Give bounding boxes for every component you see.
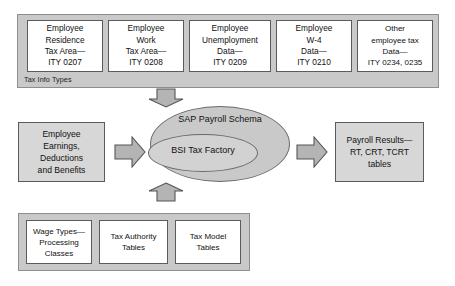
sap-payroll-schema-label: SAP Payroll Schema	[150, 114, 290, 124]
box-line-4: ITY 0208	[110, 57, 182, 68]
box-employee-earnings-deductions-benefits[interactable]: Employee Earnings, Deductions and Benefi…	[18, 122, 105, 182]
box-employee-residence-tax-area[interactable]: Employee Residence Tax Area— ITY 0207	[27, 20, 103, 72]
box-line-1: Payroll Results—	[337, 134, 422, 146]
box-employee-work-tax-area[interactable]: Employee Work Tax Area— ITY 0208	[108, 20, 184, 72]
box-line-3: Tax Area—	[110, 46, 182, 57]
box-line-1: Tax Model	[177, 231, 239, 242]
box-line-2: Tables	[101, 242, 166, 253]
box-line-2: Work	[110, 35, 182, 46]
box-line-3: tables	[337, 158, 422, 170]
box-line-1: Employee	[29, 23, 101, 34]
box-line-4: ITY 0207	[29, 57, 101, 68]
payroll-process-group: SAP Payroll Schema BSI Tax Factory	[150, 106, 290, 182]
box-line-1: Tax Authority	[101, 231, 166, 242]
box-line-3: Data—	[359, 46, 431, 57]
box-line-3: Classes	[28, 248, 90, 259]
box-line-2: W-4	[278, 35, 350, 46]
tax-info-types-label: Tax Info Types	[24, 75, 72, 84]
box-line-2: RT, CRT, TCRT	[337, 146, 422, 158]
box-line-3: Data—	[191, 46, 269, 57]
arrow-up-icon	[148, 182, 184, 202]
box-line-3: Tax Area—	[29, 46, 101, 57]
arrow-right-icon-output	[296, 136, 328, 168]
box-line-4: and Benefits	[20, 164, 103, 176]
box-line-1: Wage Types—	[28, 226, 90, 237]
box-line-1: Employee	[191, 23, 269, 34]
bsi-tax-factory-label: BSI Tax Factory	[148, 145, 258, 155]
box-wage-types-processing-classes[interactable]: Wage Types— Processing Classes	[26, 220, 92, 264]
box-employee-unemployment-data[interactable]: Employee Unemployment Data— ITY 0209	[189, 20, 271, 72]
box-line-2: employee tax	[359, 35, 431, 46]
box-employee-w4-data[interactable]: Employee W-4 Data— ITY 0210	[276, 20, 352, 72]
box-line-1: Other	[359, 23, 431, 34]
arrow-right-icon-input	[114, 136, 146, 168]
box-tax-authority-tables[interactable]: Tax Authority Tables	[99, 220, 168, 264]
arrow-down-icon	[148, 88, 184, 108]
box-line-3: Deductions	[20, 152, 103, 164]
box-line-3: Data—	[278, 46, 350, 57]
box-payroll-results[interactable]: Payroll Results— RT, CRT, TCRT tables	[335, 122, 424, 182]
box-line-2: Unemployment	[191, 35, 269, 46]
box-line-2: Tables	[177, 242, 239, 253]
box-line-1: Employee	[278, 23, 350, 34]
box-line-2: Earnings,	[20, 140, 103, 152]
box-other-employee-tax-data[interactable]: Other employee tax Data— ITY 0234, 0235	[357, 20, 433, 72]
box-line-4: ITY 0234, 0235	[359, 57, 431, 68]
box-line-4: ITY 0210	[278, 57, 350, 68]
box-line-1: Employee	[110, 23, 182, 34]
box-line-2: Processing	[28, 237, 90, 248]
box-line-2: Residence	[29, 35, 101, 46]
box-tax-model-tables[interactable]: Tax Model Tables	[175, 220, 241, 264]
box-line-4: ITY 0209	[191, 57, 269, 68]
box-line-1: Employee	[20, 128, 103, 140]
diagram-canvas: Employee Residence Tax Area— ITY 0207 Em…	[0, 0, 455, 286]
